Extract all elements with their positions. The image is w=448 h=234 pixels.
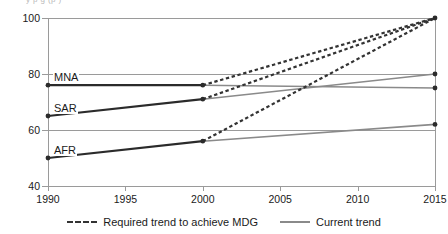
data-point-marker xyxy=(200,97,205,102)
data-point-marker xyxy=(200,139,205,144)
legend-label: Required trend to achieve MDG xyxy=(103,217,258,228)
legend-swatch-solid-line-icon xyxy=(280,221,310,223)
data-point-marker xyxy=(433,72,438,77)
region-label-mna: MNA xyxy=(53,72,79,83)
chart-legend: Required trend to achieve MDGCurrent tre… xyxy=(0,214,448,230)
data-point-marker xyxy=(433,16,438,21)
series-line-afr-current-trend xyxy=(203,124,435,141)
data-point-marker xyxy=(433,86,438,91)
legend-item-dashed[interactable]: Required trend to achieve MDG xyxy=(67,217,258,228)
region-label-sar: SAR xyxy=(53,103,78,114)
chart-container: y p g (p ) 406080100 1990199520002005201… xyxy=(0,0,448,234)
legend-swatch-dashed-line-icon xyxy=(67,221,97,223)
data-point-marker xyxy=(46,156,51,161)
data-point-marker xyxy=(46,83,51,88)
data-point-marker xyxy=(200,83,205,88)
data-point-marker xyxy=(46,114,51,119)
data-point-marker xyxy=(433,122,438,127)
plot-series-layer xyxy=(0,0,448,234)
region-label-afr: AFR xyxy=(53,145,77,156)
series-line-afr-required-trend-to-achieve-mdg xyxy=(203,18,435,141)
legend-item-solid[interactable]: Current trend xyxy=(280,217,381,228)
legend-label: Current trend xyxy=(316,217,381,228)
series-line-mna-required-trend-to-achieve-mdg xyxy=(203,18,435,85)
